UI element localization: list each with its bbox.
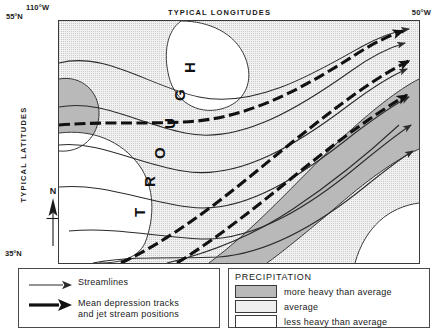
legend-precipitation: PRECIPITATION more heavy than average av… [228,268,430,328]
thin-arrow-icon [29,277,73,289]
legend-label-line1: Mean depression tracks [78,298,179,309]
swatch-more-heavy [235,285,277,298]
label-top-right-longitude: 50°W [412,8,431,17]
map-canvas: T R O U G H [59,21,419,263]
svg-text:T: T [131,208,148,217]
legend-symbols: Streamlines Mean depression tracks and j… [18,268,220,328]
legend-row-average: average [235,300,318,313]
legend-row-less-heavy: less heavy than average [235,315,387,328]
svg-text:G: G [171,89,188,101]
map-panel: T R O U G H [58,20,420,264]
svg-text:O: O [151,147,168,159]
legend-label-line2: and jet stream positions [78,309,179,320]
svg-text:R: R [141,176,158,187]
legend-label-less-heavy: less heavy than average [284,317,387,327]
label-bottom-left-latitude: 35°N [5,249,22,258]
thick-arrow-icon [29,298,73,310]
axis-title-left: TYPICAL LATITUDES [19,95,28,215]
swatch-less-heavy [235,315,277,328]
axis-title-top: TYPICAL LONGITUDES [0,8,439,17]
figure-root: 110°W 55°N TYPICAL LONGITUDES 50°W 35°N … [0,0,439,334]
legend-row-more-heavy: more heavy than average [235,285,392,298]
svg-text:U: U [161,118,178,129]
svg-text:H: H [181,62,198,73]
legend-label-streamlines: Streamlines [78,277,128,288]
legend-label-more-heavy: more heavy than average [284,287,392,297]
legend-precipitation-title: PRECIPITATION [235,272,312,282]
legend-label-average: average [284,302,318,312]
legend-label-depression-tracks: Mean depression tracks and jet stream po… [78,298,179,319]
legend-item-streamlines: Streamlines [29,277,128,289]
swatch-average [235,300,277,313]
legend-item-depression-tracks: Mean depression tracks and jet stream po… [29,298,179,319]
